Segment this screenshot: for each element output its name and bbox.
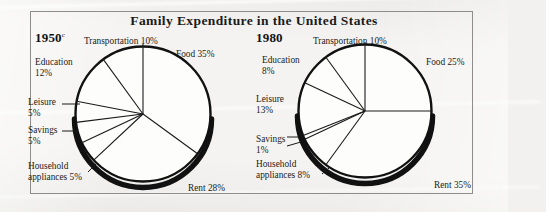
pie-chart-1950: 1950c Transportation 10% Food 35% Educat… [0, 0, 254, 212]
pie-graphic-1950 [0, 0, 254, 212]
leader-household-1980 [287, 142, 301, 146]
pie-graphic-1980 [254, 0, 508, 212]
pie-chart-1980: 1980 Transportation 10% Food 25% Educati… [254, 0, 508, 212]
